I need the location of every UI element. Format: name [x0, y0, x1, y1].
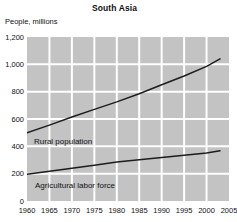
y-tick-label: 400 — [0, 142, 24, 151]
series-line-1 — [27, 151, 220, 175]
y-tick-label: 800 — [0, 87, 24, 96]
series-label-rural-population: Rural population — [34, 137, 92, 146]
x-tick-label: 1990 — [151, 206, 173, 215]
series-label-agricultural-labor-force: Agricultural labor force — [35, 181, 115, 190]
y-axis-title: People, millions — [5, 17, 58, 26]
y-tick-label: 600 — [0, 115, 24, 124]
chart-title: South Asia — [0, 3, 229, 13]
x-tick-label: 1975 — [83, 206, 105, 215]
x-tick-label: 1960 — [16, 206, 38, 215]
x-tick-label: 1985 — [128, 206, 150, 215]
south-asia-line-chart: South Asia People, millions Rural popula… — [0, 0, 237, 222]
y-tick-label: 1,000 — [0, 60, 24, 69]
plot-canvas — [27, 37, 229, 201]
x-tick-label: 2005 — [218, 206, 237, 215]
plot-area — [27, 37, 229, 201]
y-tick-label: 200 — [0, 169, 24, 178]
x-tick-label: 1965 — [38, 206, 60, 215]
y-tick-label: 0 — [0, 197, 24, 206]
series-line-0 — [27, 59, 220, 133]
x-tick-label: 1995 — [173, 206, 195, 215]
y-tick-label: 1,200 — [0, 33, 24, 42]
x-tick-label: 1970 — [61, 206, 83, 215]
x-tick-label: 1980 — [106, 206, 128, 215]
x-tick-label: 2000 — [196, 206, 218, 215]
